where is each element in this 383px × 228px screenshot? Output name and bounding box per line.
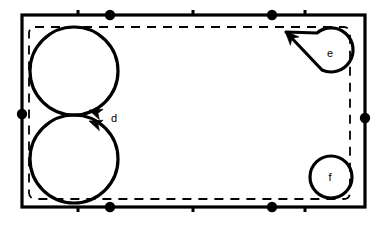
left-dot-0 bbox=[17, 109, 27, 119]
knot-diagram-svg: d e f bbox=[0, 0, 383, 228]
diagram-background bbox=[0, 0, 383, 228]
bottom-dot-0 bbox=[105, 202, 115, 212]
top-dot-0 bbox=[105, 10, 115, 20]
bottom-dot-1 bbox=[267, 202, 277, 212]
top-dot-1 bbox=[267, 10, 277, 20]
right-dot-0 bbox=[360, 113, 370, 123]
label-d: d bbox=[111, 112, 117, 124]
label-e: e bbox=[327, 47, 333, 59]
figure-container: d e f bbox=[0, 0, 383, 228]
